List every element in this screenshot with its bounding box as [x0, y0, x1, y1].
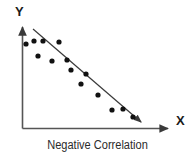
scatter-point — [130, 114, 135, 119]
scatter-point — [56, 39, 61, 44]
scatter-point — [78, 81, 83, 86]
scatter-point — [23, 41, 28, 46]
scatter-point — [120, 106, 125, 111]
scatter-plot-canvas — [0, 0, 195, 161]
scatter-point — [64, 57, 69, 62]
scatter-point-group — [23, 38, 135, 119]
scatter-point — [49, 58, 54, 63]
negative-correlation-figure: Y X Negative Correlation — [0, 0, 195, 161]
scatter-point — [35, 53, 40, 58]
scatter-point — [95, 92, 100, 97]
y-axis-label: Y — [15, 5, 24, 18]
figure-caption: Negative Correlation — [8, 138, 187, 152]
scatter-point — [83, 71, 88, 76]
x-axis-label: X — [176, 114, 185, 127]
scatter-point — [31, 38, 36, 43]
scatter-point — [68, 67, 73, 72]
scatter-point — [40, 38, 45, 43]
scatter-point — [109, 107, 114, 112]
